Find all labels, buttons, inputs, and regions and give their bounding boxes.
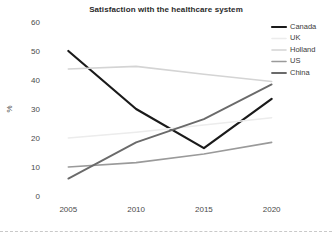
y-tick-label: 30 [31, 105, 40, 114]
x-tick-label: 2015 [195, 205, 213, 214]
chart-legend: CanadaUKHollandUSChina [272, 22, 317, 77]
y-tick-label: 0 [36, 192, 41, 201]
y-tick-label: 50 [31, 47, 40, 56]
x-tick-label: 2010 [127, 205, 145, 214]
x-axis-tick-labels: 2005201020152020 [59, 205, 281, 214]
x-tick-label: 2005 [59, 205, 77, 214]
y-tick-label: 40 [31, 76, 40, 85]
y-axis-title: % [5, 105, 14, 112]
legend-label-canada: Canada [290, 22, 317, 31]
y-tick-label: 10 [31, 163, 40, 172]
legend-label-us: US [290, 56, 300, 65]
legend-label-holland: Holland [290, 45, 315, 54]
x-tick-label: 2020 [263, 205, 281, 214]
data-series-group [68, 51, 271, 179]
line-chart-plot: 0102030405060 2005201020152020 % CanadaU… [0, 0, 332, 232]
y-tick-label: 60 [31, 18, 40, 27]
y-axis-tick-labels: 0102030405060 [31, 18, 40, 201]
legend-label-china: China [290, 68, 310, 77]
legend-label-uk: UK [290, 33, 300, 42]
series-line-uk [68, 118, 271, 138]
y-tick-label: 20 [31, 134, 40, 143]
series-line-holland [68, 66, 271, 81]
chart-container: Satisfaction with the healthcare system … [0, 0, 332, 232]
